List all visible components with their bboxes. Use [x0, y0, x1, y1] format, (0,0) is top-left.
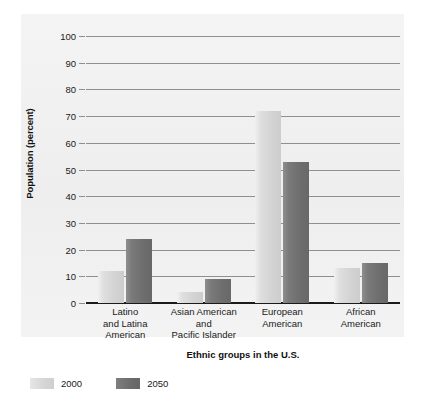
- gridline: [86, 196, 400, 197]
- y-axis-tick-label: 90: [46, 57, 76, 68]
- y-axis-tick-mark: [79, 303, 85, 304]
- y-axis-title: Population (percent): [24, 84, 35, 224]
- bar-2050-3: [362, 263, 388, 303]
- y-axis-tick-label: 30: [46, 217, 76, 228]
- category-label-line: American: [237, 318, 328, 330]
- gridline: [86, 143, 400, 144]
- gridline: [86, 170, 400, 171]
- bar-2000-0: [98, 271, 124, 303]
- bar-chart-figure: Population (percent) 0102030405060708090…: [0, 0, 425, 408]
- y-axis-tick-label: 40: [46, 191, 76, 202]
- y-axis-tick-mark: [79, 223, 85, 224]
- bar-2050-0: [126, 239, 152, 303]
- chart-legend: 20002050: [30, 378, 202, 389]
- legend-label-2000: 2000: [61, 378, 82, 389]
- gridline: [86, 36, 400, 37]
- y-axis-tick-mark: [79, 170, 85, 171]
- y-axis-tick-label: 70: [46, 111, 76, 122]
- y-axis-tick-label: 50: [46, 164, 76, 175]
- gridline: [86, 116, 400, 117]
- gridline: [86, 63, 400, 64]
- category-label-line: European: [237, 306, 328, 318]
- bar-2050-1: [205, 279, 231, 303]
- y-axis-tick-mark: [79, 276, 85, 277]
- bar-2000-3: [334, 268, 360, 303]
- y-axis-tick-mark: [79, 196, 85, 197]
- legend-swatch-2050: [116, 378, 140, 389]
- legend-label-2050: 2050: [147, 378, 168, 389]
- legend-item-2000: 2000: [30, 378, 82, 389]
- y-axis-tick-mark: [79, 143, 85, 144]
- y-axis-tick-mark: [79, 250, 85, 251]
- legend-item-2050: 2050: [116, 378, 168, 389]
- y-axis-tick-label: 80: [46, 84, 76, 95]
- category-label-line: Asian American: [159, 306, 250, 318]
- bar-2000-1: [177, 292, 203, 303]
- y-axis-tick-mark: [79, 89, 85, 90]
- category-label-line: and: [159, 318, 250, 330]
- x-axis-title: Ethnic groups in the U.S.: [86, 349, 400, 360]
- y-axis-tick-label: 60: [46, 137, 76, 148]
- category-label-line: Latino: [80, 306, 171, 318]
- category-label-line: and Latina: [80, 318, 171, 330]
- x-axis-category-0: Latinoand LatinaAmerican: [80, 306, 171, 341]
- y-axis-tick-mark: [79, 116, 85, 117]
- x-axis-category-3: AfricanAmerican: [316, 306, 407, 329]
- y-axis-tick-mark: [79, 36, 85, 37]
- x-axis-category-1: Asian AmericanandPacific Islander: [159, 306, 250, 341]
- category-label-line: African: [316, 306, 407, 318]
- bar-2000-2: [255, 111, 281, 303]
- x-axis-category-2: EuropeanAmerican: [237, 306, 328, 329]
- category-label-line: American: [316, 318, 407, 330]
- category-label-line: Pacific Islander: [159, 329, 250, 341]
- bar-2050-2: [283, 162, 309, 304]
- y-axis-tick-label: 20: [46, 244, 76, 255]
- y-axis-tick-label: 0: [46, 298, 76, 309]
- gridline: [86, 223, 400, 224]
- plot-area: 0102030405060708090100: [86, 36, 400, 303]
- legend-swatch-2000: [30, 378, 54, 389]
- category-label-line: American: [80, 329, 171, 341]
- y-axis-tick-mark: [79, 63, 85, 64]
- y-axis-tick-label: 10: [46, 271, 76, 282]
- y-axis-tick-label: 100: [46, 31, 76, 42]
- gridline: [86, 89, 400, 90]
